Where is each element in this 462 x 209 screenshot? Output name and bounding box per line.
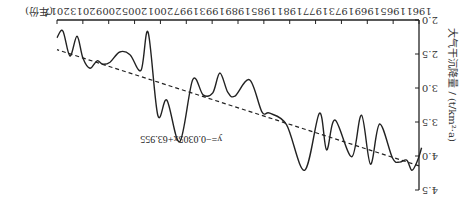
- x-tick-label: 2013: [70, 6, 95, 17]
- trend-line: [57, 50, 419, 166]
- x-tick-label: 1993: [199, 6, 224, 17]
- y-tick-label: 3.5: [422, 117, 438, 128]
- y-tick-label: 4.0: [422, 151, 438, 162]
- x-tick-label: 1973: [329, 6, 354, 17]
- x-tick-label: 1969: [355, 6, 380, 17]
- x-axis-ticks: 1961196519691973197719811985198919931997…: [44, 6, 431, 24]
- x-tick-label: 1965: [380, 6, 405, 17]
- line-chart: 1961196519691973197719811985198919931997…: [0, 0, 462, 209]
- axes: [57, 20, 419, 190]
- regression-equation: y=−0.0305x+63.955: [140, 134, 222, 145]
- y-tick-label: 4.5: [422, 185, 438, 196]
- x-tick-label: 1981: [277, 6, 302, 17]
- x-tick-label: 1997: [174, 6, 199, 17]
- x-tick-label: 2009: [96, 6, 121, 17]
- chart-stage: 1961196519691973197719811985198919931997…: [0, 0, 462, 209]
- x-tick-label: 1985: [251, 6, 276, 17]
- x-axis-title: (年份): [25, 6, 53, 18]
- y-axis-title: 大气干沉降量 / (t/km²·a): [447, 28, 459, 142]
- y-tick-label: 2.0: [422, 15, 438, 26]
- y-tick-label: 3.0: [422, 83, 438, 94]
- x-tick-label: 2005: [122, 6, 147, 17]
- y-tick-label: 2.5: [422, 49, 438, 60]
- x-tick-label: 2001: [148, 6, 173, 17]
- data-series-line: [57, 30, 422, 170]
- x-tick-label: 1989: [225, 6, 250, 17]
- x-tick-label: 1977: [303, 6, 328, 17]
